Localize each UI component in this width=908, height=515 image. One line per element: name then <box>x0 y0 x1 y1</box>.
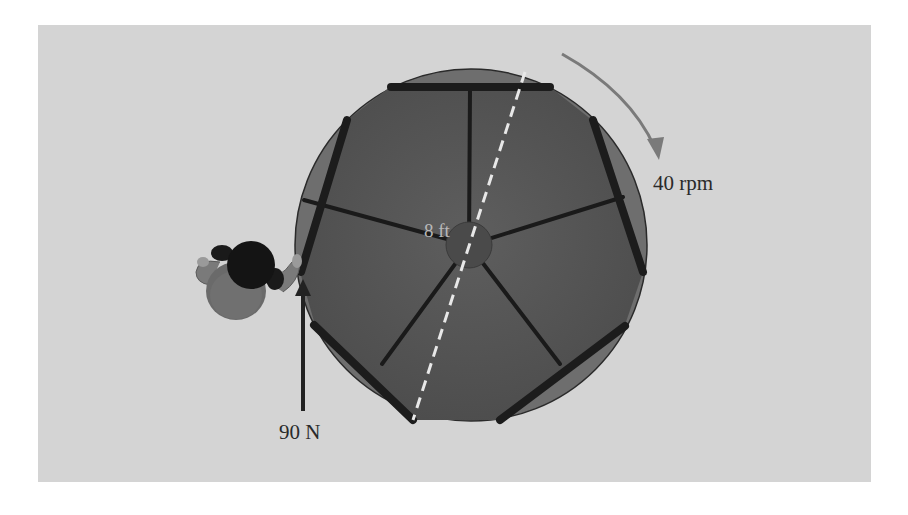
applied-force-label: 90 N <box>279 422 320 443</box>
merry-go-round-diagram <box>0 0 908 515</box>
rotation-rate-label: 40 rpm <box>653 173 713 194</box>
diameter-label: 8 ft <box>424 221 450 240</box>
child-figure <box>196 241 302 320</box>
